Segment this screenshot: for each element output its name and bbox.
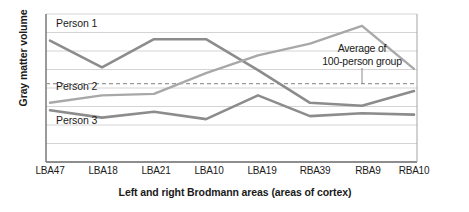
x-tick-label-rba10: RBA10 [386, 165, 442, 176]
series-label-person-1: Person 1 [56, 17, 97, 29]
chart-plot-area [0, 0, 469, 212]
x-tick-label-lba21: LBA21 [128, 165, 184, 176]
annotation-line-1: Average of [303, 42, 421, 55]
series-label-person-3: Person 3 [56, 114, 97, 126]
annotation-line-2: 100-person group [303, 55, 421, 68]
x-tick-label-lba47: LBA47 [22, 165, 78, 176]
x-axis-title: Left and right Brodmann areas (areas of … [40, 186, 430, 198]
x-tick-label-lba10: LBA10 [181, 165, 237, 176]
gray-matter-volume-line-chart: Gray matter volume Person 1 Person 2 Per… [0, 0, 469, 212]
x-tick-label-lba19: LBA19 [234, 165, 290, 176]
annotation-average-group: Average of 100-person group [303, 42, 421, 67]
x-tick-label-rba39: RBA39 [287, 165, 343, 176]
x-tick-label-lba18: LBA18 [75, 165, 131, 176]
series-label-person-2: Person 2 [56, 80, 97, 92]
y-axis-title: Gray matter volume [17, 0, 29, 133]
